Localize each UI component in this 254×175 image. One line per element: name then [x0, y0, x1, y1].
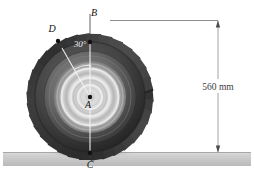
label-d: D: [47, 23, 56, 34]
label-a: A: [84, 99, 92, 110]
label-b: B: [91, 7, 97, 18]
label-dimension-560mm: 560 mm: [202, 82, 234, 92]
diagram-canvas: B D A C 30° 560 mm: [0, 0, 254, 175]
point-b-top: [88, 40, 92, 44]
arrowhead-bottom: [216, 146, 220, 153]
point-c-contact: [88, 151, 92, 155]
label-angle-30: 30°: [73, 39, 87, 49]
arrowhead-top: [216, 21, 220, 28]
point-d: [56, 39, 60, 43]
label-c: C: [87, 159, 94, 170]
tire-diagram-figure: B D A C 30° 560 mm: [0, 0, 254, 175]
